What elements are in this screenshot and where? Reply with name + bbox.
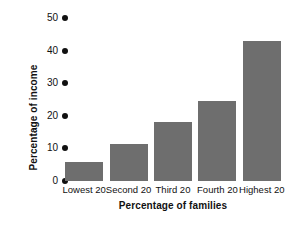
bar [243, 41, 281, 181]
bar [198, 101, 236, 181]
bar [154, 122, 192, 181]
x-axis-title: Percentage of families [62, 200, 284, 211]
y-axis-tick-label: 30 [47, 78, 58, 88]
y-axis-tick-label: 10 [47, 143, 58, 153]
y-axis-tick-label: 20 [47, 111, 58, 121]
bar-chart: Percentage of income 01020304050 Lowest … [0, 0, 297, 225]
x-axis-tick-label: Highest 20 [234, 183, 290, 197]
y-axis-tick-label: 50 [47, 13, 58, 23]
bar [110, 144, 148, 181]
y-axis-tick-label: 40 [47, 46, 58, 56]
plot-area [62, 18, 284, 181]
bar [65, 162, 103, 181]
